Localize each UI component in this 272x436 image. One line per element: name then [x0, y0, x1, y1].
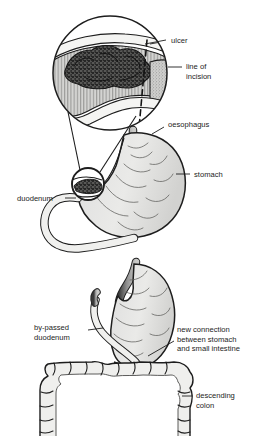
label-duodenum-text: duodenum — [17, 194, 53, 203]
medical-diagram-gastric-bypass: ulcer line of incision — [0, 0, 272, 436]
label-descending-colon-text-2: colon — [196, 401, 214, 410]
label-line-of-incision-text-2: incision — [186, 72, 211, 81]
label-oesophagus-text: oesophagus — [168, 120, 210, 129]
colon-inner-outline — [56, 374, 180, 436]
label-new-connection-text-1: new connection — [177, 325, 230, 334]
label-bypassed-duodenum-text-1: by-passed — [34, 323, 69, 332]
label-descending-colon-text-1: descending — [196, 391, 235, 400]
label-stomach-text: stomach — [194, 170, 223, 179]
label-line-of-incision-text-1: line of — [186, 62, 207, 71]
label-new-connection-text-3: and small intestine — [177, 344, 240, 353]
label-new-connection-text-2: between stomach — [177, 335, 237, 344]
diagram-canvas: ulcer line of incision — [0, 0, 272, 436]
label-ulcer-text: ulcer — [171, 36, 188, 45]
bypassed-duodenum-tip-shade — [94, 292, 97, 303]
label-bypassed-duodenum-text-2: duodenum — [34, 333, 70, 342]
